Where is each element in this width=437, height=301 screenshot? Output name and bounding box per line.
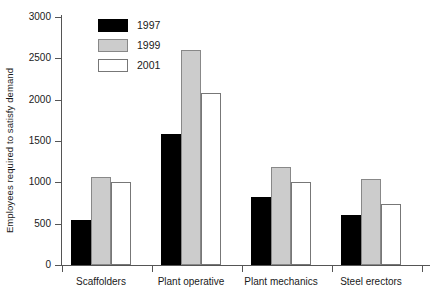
y-tick-label: 0 [0, 260, 51, 270]
x-tick [242, 266, 243, 272]
category-label: Plant mechanics [231, 276, 331, 287]
y-tick [55, 265, 62, 266]
bar [341, 215, 361, 265]
bar [271, 167, 291, 265]
x-tick [152, 266, 153, 272]
y-tick-label: 3000 [0, 12, 51, 22]
x-tick [332, 266, 333, 272]
y-axis-title: Employees required to satisfy demand [0, 0, 18, 301]
category-label: Scaffolders [51, 276, 151, 287]
legend-swatch-2001 [98, 59, 128, 72]
legend-label-1997: 1997 [137, 20, 160, 31]
legend-label-2001: 2001 [137, 60, 160, 71]
y-tick-label: 2000 [0, 95, 51, 105]
bar [291, 182, 311, 265]
legend: 1997 1999 2001 [98, 19, 160, 72]
y-tick [55, 100, 62, 101]
legend-swatch-1997 [98, 19, 128, 32]
bar [161, 134, 181, 265]
y-tick [55, 58, 62, 59]
y-tick-label: 1000 [0, 177, 51, 187]
y-tick-label: 2500 [0, 53, 51, 63]
bar-chart: Employees required to satisfy demand 050… [0, 0, 437, 301]
legend-label-1999: 1999 [137, 40, 160, 51]
category-label: Plant operative [141, 276, 241, 287]
bar [361, 179, 381, 265]
y-tick-label: 500 [0, 219, 51, 229]
bar [181, 50, 201, 265]
bar [251, 197, 271, 265]
y-tick [55, 224, 62, 225]
bar [71, 220, 91, 265]
legend-item-1997: 1997 [98, 19, 160, 32]
x-tick [422, 266, 423, 272]
y-tick-label: 1500 [0, 136, 51, 146]
x-axis-line [61, 265, 430, 266]
category-label: Steel erectors [321, 276, 421, 287]
bar [381, 204, 401, 265]
y-tick [55, 141, 62, 142]
y-tick [55, 17, 62, 18]
legend-swatch-1999 [98, 39, 128, 52]
bar [91, 177, 111, 265]
bar [111, 182, 131, 265]
legend-item-1999: 1999 [98, 39, 160, 52]
bar [201, 93, 221, 265]
legend-item-2001: 2001 [98, 59, 160, 72]
y-tick [55, 182, 62, 183]
x-tick [62, 266, 63, 272]
